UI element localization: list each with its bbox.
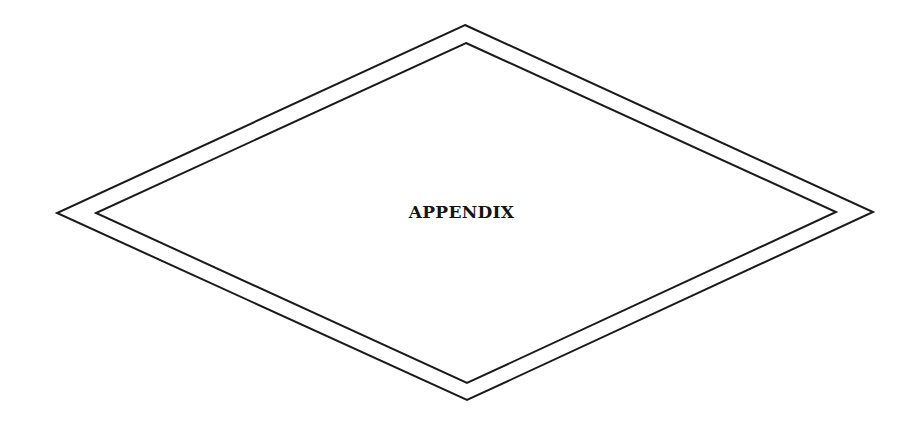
- appendix-heading: APPENDIX: [0, 202, 923, 222]
